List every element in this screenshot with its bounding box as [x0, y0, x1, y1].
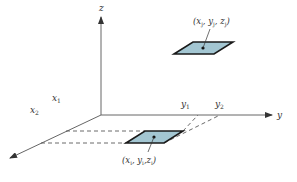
tick-label-x2: x2: [30, 105, 39, 116]
y-axis-label: y: [276, 110, 283, 120]
projection-lines: [41, 115, 220, 143]
x-axis: [10, 115, 101, 158]
tick-label-y1: y1: [180, 99, 190, 110]
surface-projection-diagram: z y x1 x2 y1 y2 (xj, yj, zj) (xi, yi,zi): [0, 0, 297, 182]
tick-label-x1: x1: [52, 93, 61, 104]
tick-label-y2: y2: [214, 99, 224, 110]
lower-point-label: (xi, yi,zi): [122, 155, 156, 166]
z-axis-label: z: [98, 3, 104, 13]
upper-point-label: (xj, yj, zj): [193, 16, 230, 28]
